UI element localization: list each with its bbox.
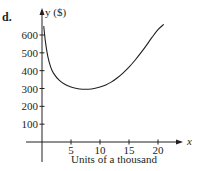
x-axis-arrow-icon [176,140,183,145]
y-tick-label: 100 [22,118,39,130]
y-tick-label: 300 [22,83,39,95]
chart-figure: d. y ($) x Units of a thousand 100200300… [0,0,197,171]
y-tick-label: 600 [22,29,39,41]
x-tick-label: 5 [68,144,74,156]
x-tick-label: 20 [153,144,165,156]
x-axis-symbol: x [186,135,192,147]
y-axis-arrow-icon [40,8,45,15]
y-ticks: 100200300400500600 [22,29,45,130]
y-tick-label: 500 [22,47,39,59]
y-axis-label: y ($) [45,6,66,19]
part-label: d. [2,10,12,24]
data-curve [44,24,164,89]
y-tick-label: 400 [22,65,39,77]
x-tick-label: 10 [95,144,107,156]
x-axis-label: Units of a thousand [71,153,157,165]
y-tick-label: 200 [22,100,39,112]
x-tick-label: 15 [124,144,136,156]
